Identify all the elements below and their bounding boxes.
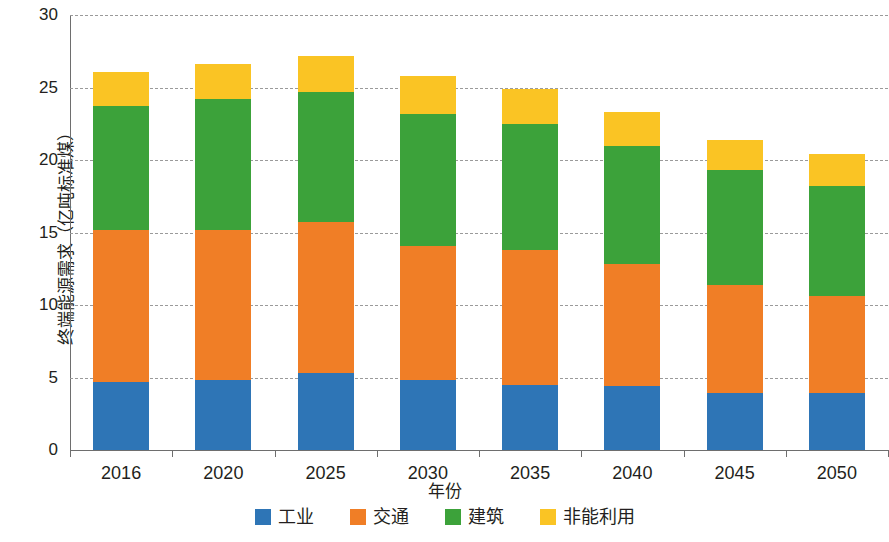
bar-segment [298,373,354,450]
bar-segment [195,380,251,450]
bar-segment [400,380,456,450]
x-axis-tick [172,450,173,457]
legend-item[interactable]: 建筑 [445,508,504,526]
x-axis-tick [581,450,582,457]
bar-segment [604,264,660,386]
legend-label: 建筑 [468,508,504,526]
gridline [70,88,888,89]
gridline [70,233,888,234]
bar-stack [400,76,456,450]
y-axis-tick-label: 10 [10,295,58,315]
legend-swatch-icon [445,509,461,525]
legend-item[interactable]: 工业 [255,508,314,526]
legend-label: 非能利用 [563,508,635,526]
bar-segment [298,92,354,223]
legend-label: 工业 [278,508,314,526]
stacked-bar-chart: 终端能源需求（亿吨标准煤） 05101520253020162020202520… [0,0,889,542]
legend-swatch-icon [350,509,366,525]
chart-legend: 工业交通建筑非能利用 [0,508,889,526]
bar-stack [707,140,763,450]
bar-segment [604,112,660,145]
bar-segment [707,140,763,170]
x-axis-tick [684,450,685,457]
y-axis-tick-label: 15 [10,223,58,243]
bar-segment [502,250,558,385]
legend-label: 交通 [373,508,409,526]
legend-item[interactable]: 交通 [350,508,409,526]
bar-segment [93,230,149,382]
y-axis-tick-label: 20 [10,150,58,170]
bar-segment [502,124,558,250]
bar-segment [604,386,660,450]
bar-segment [809,296,865,393]
bar-stack [604,112,660,450]
bar-segment [195,99,251,230]
legend-swatch-icon [540,509,556,525]
x-axis-title: 年份 [0,477,889,502]
gridline [70,378,888,379]
y-axis-tick-label: 0 [10,440,58,460]
bar-segment [93,72,149,107]
gridline [70,15,888,16]
gridline [70,305,888,306]
gridline [70,160,888,161]
x-axis-tick [786,450,787,457]
bar-segment [502,385,558,450]
bar-segment [93,106,149,229]
bar-segment [298,222,354,373]
y-axis-tick-label: 25 [10,78,58,98]
x-axis-tick [377,450,378,457]
x-axis-tick [70,450,71,457]
bar-segment [809,393,865,450]
bar-stack [502,89,558,450]
bar-segment [400,246,456,381]
legend-item[interactable]: 非能利用 [540,508,635,526]
x-axis-tick [275,450,276,457]
x-axis-tick [479,450,480,457]
bar-segment [400,114,456,246]
bar-segment [809,186,865,296]
bar-segment [707,285,763,394]
bar-segment [93,382,149,450]
bar-segment [195,230,251,381]
legend-swatch-icon [255,509,271,525]
bar-stack [298,56,354,450]
bar-stack [809,154,865,450]
bar-segment [502,89,558,124]
bar-segment [604,146,660,265]
plot-area: 0510152025302016202020252030203520402045… [70,15,888,450]
bar-segment [809,154,865,186]
y-axis-tick-label: 30 [10,5,58,25]
bar-stack [93,72,149,450]
bar-segment [707,170,763,285]
bar-segment [707,393,763,450]
bar-segment [298,56,354,92]
y-axis-tick-label: 5 [10,368,58,388]
bar-stack [195,64,251,450]
bar-segment [195,64,251,99]
bar-segment [400,76,456,114]
